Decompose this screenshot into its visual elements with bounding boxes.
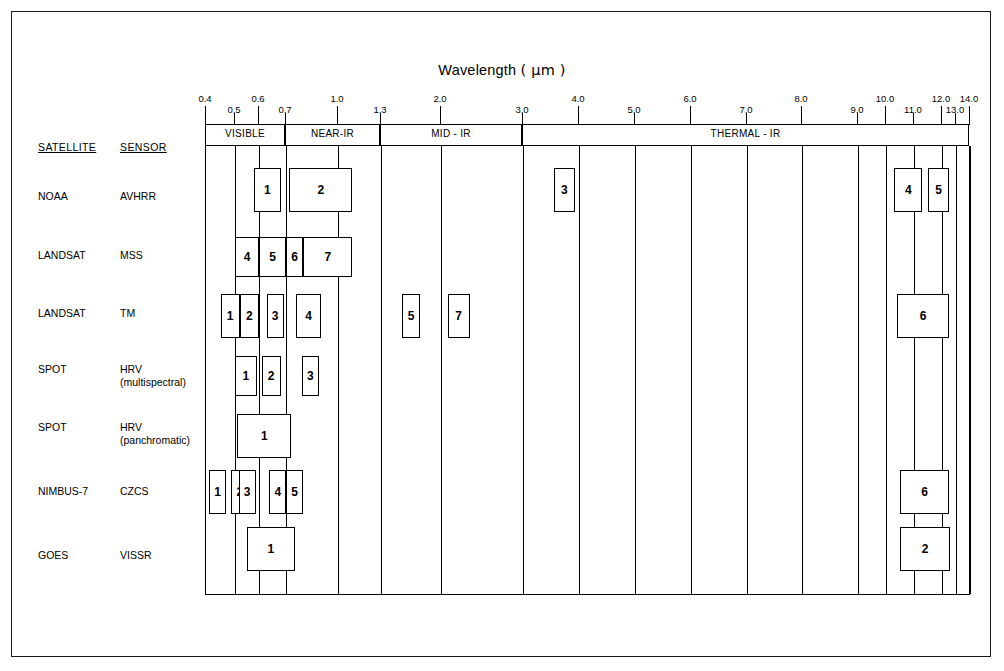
sensor-name-czcs: CZCS [120,485,149,498]
gridline-14.0 [970,146,971,594]
band-box-landsat-tm-7: 7 [448,294,470,338]
axis-tick-label-0.5: 0.5 [214,104,254,115]
spectral-region-label: THERMAL - IR [523,128,968,139]
sensor-name-avhrr: AVHRR [120,190,156,203]
band-box-landsat-tm-4: 4 [296,294,320,338]
sensor-name-primary: CZCS [120,485,149,498]
band-box-landsat-mss-5: 5 [259,237,286,277]
axis-tick-label-4.0: 4.0 [558,93,598,104]
band-box-nimbus-7-czcs-3: 3 [239,470,256,514]
band-box-landsat-tm-6: 6 [897,294,949,338]
band-box-nimbus-7-czcs-6: 6 [900,470,949,514]
gridline-6.0 [691,146,692,594]
axis-tick-14.0 [969,106,970,124]
band-box-noaa-avhrr-3: 3 [554,168,575,212]
axis-tick-0.6 [258,106,259,124]
band-box-nimbus-7-czcs-5: 5 [286,470,303,514]
band-box-landsat-tm-5: 5 [402,294,419,338]
spectral-region-visible: VISIBLE [205,125,285,146]
spectral-region-near-ir: NEAR-IR [285,125,380,146]
band-box-noaa-avhrr-5: 5 [928,168,949,212]
band-box-spot-hrv-multispectral-1: 1 [235,356,257,396]
spectral-region-label: MID - IR [381,128,521,139]
axis-tick-label-6.0: 6.0 [670,93,710,104]
axis-tick-10.0 [885,106,886,124]
band-box-spot-hrv-multispectral-3: 3 [302,356,319,396]
band-box-landsat-tm-2: 2 [240,294,259,338]
axis-tick-label-10.0: 10.0 [865,93,905,104]
gridline-1.3 [381,146,382,594]
gridline-9.0 [858,146,859,594]
gridline-8.0 [802,146,803,594]
band-box-spot-hrv-panchromatic-1: 1 [237,414,291,458]
spectral-region-thermal-ir: THERMAL - IR [522,125,969,146]
gridline-10.0 [886,146,887,594]
gridline-5.0 [635,146,636,594]
band-box-landsat-tm-1: 1 [221,294,240,338]
band-box-landsat-mss-7: 7 [303,237,352,277]
satellite-name-landsat: LANDSAT [38,307,86,320]
axis-tick-1.0 [337,106,338,124]
gridline-3.0 [523,146,524,594]
axis-tick-label-0.4: 0.4 [185,93,225,104]
axis-tick-label-2.0: 2.0 [420,93,460,104]
axis-tick-label-1.0: 1.0 [317,93,357,104]
axis-tick-label-3.0: 3.0 [502,104,542,115]
plot-area: 1234545671234576123112345612 [205,146,970,595]
sensor-name-primary: VISSR [120,549,152,562]
spectral-region-label: VISIBLE [206,128,284,139]
sensor-name-vissr: VISSR [120,549,152,562]
spectral-region-mid-ir: MID - IR [380,125,522,146]
band-box-goes-vissr-2: 2 [900,527,950,571]
band-box-landsat-mss-4: 4 [235,237,259,277]
gridline-1.0 [338,146,339,594]
band-box-noaa-avhrr-2: 2 [289,168,352,212]
axis-tick-label-11.0: 11.0 [893,104,933,115]
axis-tick-label-0.7: 0.7 [265,104,305,115]
satellite-name-noaa: NOAA [38,190,68,203]
axis-tick-label-5.0: 5.0 [614,104,654,115]
axis-tick-4.0 [578,106,579,124]
band-box-landsat-tm-3: 3 [267,294,284,338]
axis-tick-label-0.6: 0.6 [238,93,278,104]
axis-tick-label-8.0: 8.0 [781,93,821,104]
band-box-spot-hrv-multispectral-2: 2 [262,356,281,396]
satellite-name-spot: SPOT [38,363,67,376]
band-box-nimbus-7-czcs-1: 1 [209,470,226,514]
sensor-name-primary: HRV [120,363,186,376]
axis-tick-0.4 [205,106,206,124]
axis-tick-label-14.0: 14.0 [949,93,989,104]
sensor-name-mss: MSS [120,249,143,262]
axis-tick-label-9.0: 9.0 [837,104,877,115]
axis-tick-6.0 [690,106,691,124]
satellite-name-nimbus-7: NIMBUS-7 [38,485,88,498]
sensor-name-primary: TM [120,307,135,320]
axis-tick-label-1.3: 1.3 [360,104,400,115]
axis-tick-label-7.0: 7.0 [726,104,766,115]
axis-tick-2.0 [440,106,441,124]
band-box-landsat-mss-6: 6 [286,237,303,277]
axis-tick-8.0 [801,106,802,124]
gridline-13.0 [956,146,957,594]
sensor-name-qualifier: (panchromatic) [120,434,190,447]
gridline-2.0 [441,146,442,594]
band-box-noaa-avhrr-1: 1 [254,168,280,212]
band-box-noaa-avhrr-4: 4 [894,168,922,212]
satellite-name-spot: SPOT [38,421,67,434]
sensor-name-qualifier: (multispectral) [120,376,186,389]
sensor-name-primary: MSS [120,249,143,262]
gridline-7.0 [747,146,748,594]
sensor-name-hrv: HRV(multispectral) [120,363,186,389]
gridline-4.0 [579,146,580,594]
band-box-nimbus-7-czcs-4: 4 [269,470,286,514]
spectral-region-label: NEAR-IR [286,128,379,139]
satellite-name-landsat: LANDSAT [38,249,86,262]
sensor-name-hrv: HRV(panchromatic) [120,421,190,447]
sensor-name-primary: HRV [120,421,190,434]
sensor-name-tm: TM [120,307,135,320]
band-box-goes-vissr-1: 1 [247,527,295,571]
satellite-name-goes: GOES [38,549,68,562]
sensor-name-primary: AVHRR [120,190,156,203]
